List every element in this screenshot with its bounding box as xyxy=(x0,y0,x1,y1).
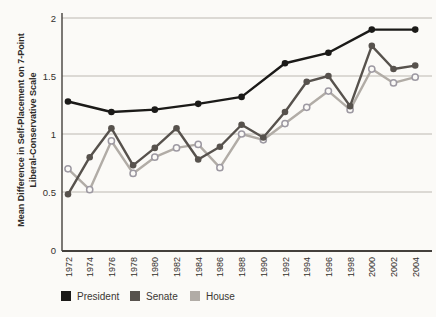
x-tick-label: 1984 xyxy=(194,257,204,277)
x-tick-label: 2004 xyxy=(411,257,421,277)
house-swatch-icon xyxy=(190,291,200,301)
series-senate-point xyxy=(152,145,159,152)
series-house-point xyxy=(87,187,93,193)
series-house-point xyxy=(325,88,331,94)
series-house-point xyxy=(195,141,201,147)
x-tick-label: 2002 xyxy=(389,257,399,277)
series-president-point xyxy=(238,94,245,101)
series-senate-point xyxy=(347,103,354,110)
legend-label-president: President xyxy=(77,291,119,302)
series-senate-point xyxy=(130,162,137,169)
y-tick-label: 0.5 xyxy=(43,187,56,198)
y-tick-label: 1 xyxy=(51,129,56,140)
series-house-line xyxy=(68,69,415,190)
series-house-point xyxy=(65,166,71,172)
series-senate-line xyxy=(68,46,415,194)
y-tick-label: 1.5 xyxy=(43,71,56,82)
legend-item-president: President xyxy=(61,289,119,303)
series-president-point xyxy=(412,26,419,33)
series-house-point xyxy=(412,74,418,80)
series-senate-point xyxy=(173,125,180,132)
y-tick-label: 2 xyxy=(51,13,56,24)
series-senate-point xyxy=(412,62,419,69)
series-president-point xyxy=(282,60,289,67)
series-president-point xyxy=(108,109,115,116)
series-house-point xyxy=(304,104,310,110)
legend-label-senate: Senate xyxy=(146,291,178,302)
x-tick-label: 1998 xyxy=(346,257,356,277)
series-house-point xyxy=(369,66,375,72)
series-house-point xyxy=(130,170,136,176)
series-senate-point xyxy=(238,121,245,128)
series-senate-point xyxy=(108,125,115,132)
series-president-point xyxy=(195,101,202,108)
series-president-point xyxy=(369,26,376,33)
series-president-point xyxy=(325,50,332,57)
x-tick-label: 2000 xyxy=(367,257,377,277)
plot-area: 00.511.521972197419761978198019821984198… xyxy=(0,0,436,317)
series-senate-point xyxy=(86,154,93,161)
series-president-point xyxy=(152,106,159,113)
x-tick-label: 1972 xyxy=(64,257,74,277)
series-senate-point xyxy=(390,66,397,73)
series-house-point xyxy=(282,120,288,126)
series-house-point xyxy=(173,145,179,151)
x-tick-label: 1996 xyxy=(324,257,334,277)
series-senate-point xyxy=(282,109,289,116)
x-tick-label: 1992 xyxy=(281,257,291,277)
legend-label-house: House xyxy=(206,291,235,302)
series-senate-point xyxy=(260,134,267,141)
x-tick-label: 1974 xyxy=(85,257,95,277)
x-tick-label: 1994 xyxy=(302,257,312,277)
series-house-point xyxy=(239,131,245,137)
series-senate-point xyxy=(65,191,72,198)
x-tick-label: 1982 xyxy=(172,257,182,277)
chart-figure: Mean Difference in Self-Placement on 7-P… xyxy=(0,0,436,317)
x-tick-label: 1980 xyxy=(150,257,160,277)
x-tick-label: 1990 xyxy=(259,257,269,277)
series-president-point xyxy=(65,98,72,105)
series-senate-point xyxy=(303,79,310,86)
series-house-point xyxy=(217,165,223,171)
y-tick-label: 0 xyxy=(51,245,56,256)
series-house-point xyxy=(108,138,114,144)
series-senate-point xyxy=(217,143,224,150)
x-tick-label: 1976 xyxy=(107,257,117,277)
x-tick-label: 1988 xyxy=(237,257,247,277)
president-swatch-icon xyxy=(61,291,71,301)
legend: President Senate House xyxy=(0,289,436,305)
x-tick-label: 1986 xyxy=(215,257,225,277)
series-senate-point xyxy=(369,43,376,50)
series-house-point xyxy=(152,154,158,160)
legend-item-senate: Senate xyxy=(130,289,178,303)
legend-item-house: House xyxy=(190,289,235,303)
x-tick-label: 1978 xyxy=(129,257,139,277)
series-senate-point xyxy=(325,73,332,80)
series-senate-point xyxy=(195,156,202,163)
series-house-point xyxy=(390,80,396,86)
senate-swatch-icon xyxy=(130,291,140,301)
